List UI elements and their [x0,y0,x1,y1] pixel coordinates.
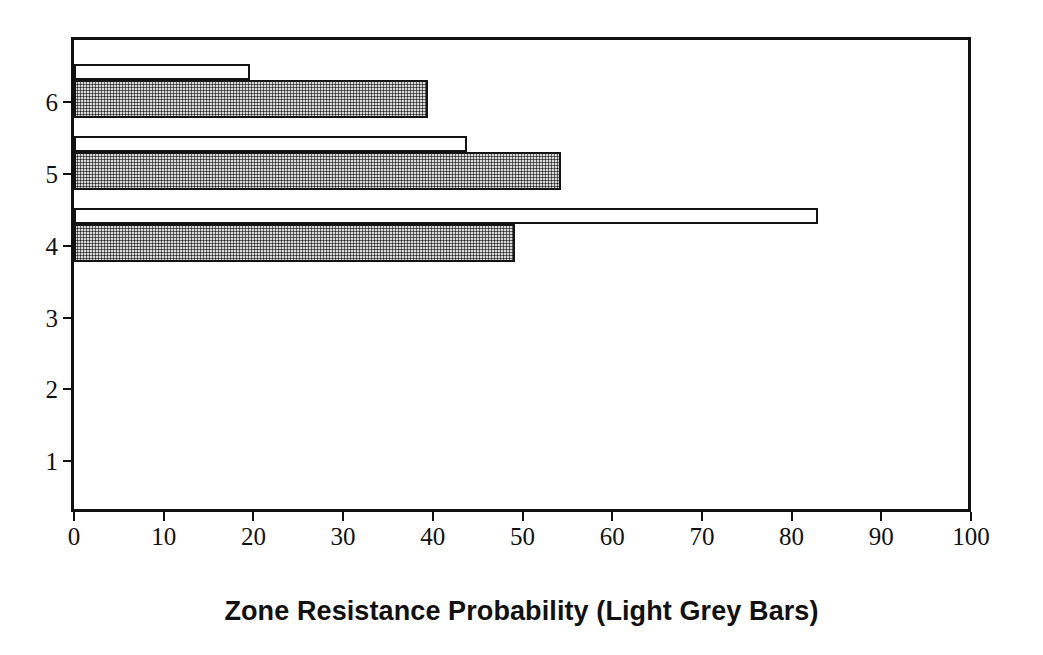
chart-container: 0102030405060708090100 123456 Zone Resis… [0,0,1043,655]
y-tick-2 [63,388,72,390]
y-tick-5 [63,173,72,175]
bar-open-zone-6 [74,64,250,80]
x-tick-label-90: 90 [869,524,894,549]
y-tick-label-2: 2 [46,377,59,402]
x-tick-20 [252,512,254,521]
x-tick-50 [522,512,524,521]
x-tick-100 [970,512,972,521]
x-tick-90 [880,512,882,521]
x-tick-60 [611,512,613,521]
x-tick-label-60: 60 [600,524,625,549]
x-tick-30 [342,512,344,521]
y-tick-label-5: 5 [46,162,59,187]
x-tick-0 [73,512,75,521]
bar-grey-zone-4 [74,224,515,262]
bars-layer [71,37,971,512]
y-tick-6 [63,101,72,103]
x-tick-label-0: 0 [68,524,81,549]
x-tick-70 [701,512,703,521]
x-tick-label-100: 100 [952,524,990,549]
y-tick-label-6: 6 [46,90,59,115]
x-tick-label-40: 40 [420,524,445,549]
x-tick-label-20: 20 [241,524,266,549]
bar-open-zone-4 [74,208,818,224]
bar-grey-zone-5 [74,152,561,190]
bar-grey-zone-6 [74,80,428,118]
bar-open-zone-5 [74,136,467,152]
y-tick-label-3: 3 [46,306,59,331]
x-tick-label-10: 10 [151,524,176,549]
y-tick-label-4: 4 [46,234,59,259]
x-tick-40 [432,512,434,521]
y-tick-label-1: 1 [46,449,59,474]
x-tick-80 [791,512,793,521]
x-tick-10 [163,512,165,521]
x-tick-label-70: 70 [689,524,714,549]
x-tick-label-30: 30 [331,524,356,549]
x-axis-title: Zone Resistance Probability (Light Grey … [0,596,1043,627]
x-tick-label-80: 80 [779,524,804,549]
x-tick-label-50: 50 [510,524,535,549]
y-tick-1 [63,460,72,462]
y-tick-4 [63,245,72,247]
y-tick-3 [63,317,72,319]
